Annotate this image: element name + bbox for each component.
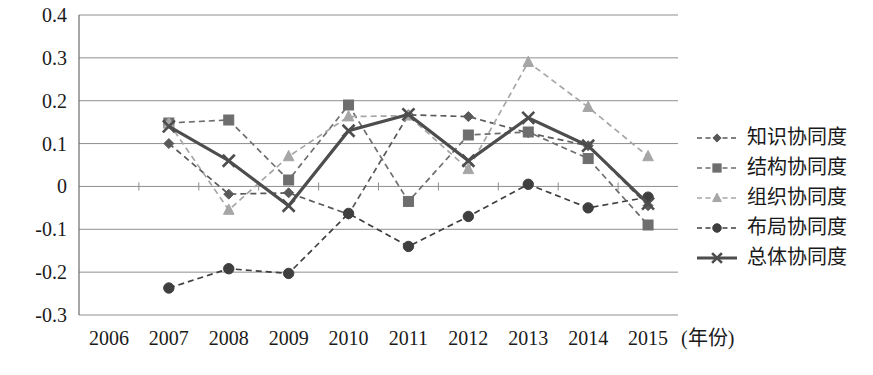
y-axis-tick-label: 0.4: [42, 4, 67, 26]
x-axis-tick-label: 2014: [568, 327, 608, 349]
marker-circle: [463, 211, 473, 221]
marker-diamond: [284, 188, 294, 198]
x-axis-tick-label: 2009: [269, 327, 309, 349]
x-axis-tick-label: 2013: [508, 327, 548, 349]
legend-item-3[interactable]: 组织协同度: [697, 186, 847, 208]
legend-label: 结构协同度: [747, 156, 847, 178]
legend-item-1[interactable]: 知识协同度: [697, 126, 847, 148]
y-axis-tick-label: -0.2: [35, 261, 67, 283]
legend-label: 组织协同度: [747, 186, 847, 208]
marker-circle: [713, 224, 722, 233]
y-axis-tick-label: 0.1: [42, 133, 67, 155]
marker-x: [223, 155, 235, 167]
marker-circle: [224, 264, 234, 274]
marker-square: [583, 154, 593, 164]
marker-circle: [343, 208, 353, 218]
marker-triangle: [223, 204, 234, 214]
series-line-x: [169, 114, 648, 205]
marker-square: [523, 127, 533, 137]
x-axis-tick-label: 2006: [89, 327, 129, 349]
marker-diamond: [713, 134, 721, 142]
marker-circle: [523, 179, 533, 189]
marker-triangle: [583, 101, 594, 111]
legend-item-5[interactable]: 总体协同度: [697, 246, 847, 268]
y-axis-tick-label: -0.3: [35, 304, 67, 326]
legend-label: 布局协同度: [747, 216, 847, 238]
marker-circle: [164, 283, 174, 293]
legend-label: 知识协同度: [747, 126, 847, 148]
series-line-square: [169, 105, 648, 225]
marker-triangle: [283, 150, 294, 160]
y-axis-tick-label: 0: [57, 175, 67, 197]
x-axis-tick-label: 2007: [149, 327, 189, 349]
x-axis-tick-label: 2008: [209, 327, 249, 349]
marker-x: [522, 112, 534, 124]
x-axis-title: (年份): [681, 327, 734, 350]
marker-square: [713, 164, 721, 172]
marker-square: [224, 115, 234, 125]
x-axis-tick-label: 2011: [389, 327, 428, 349]
legend-item-4[interactable]: 布局协同度: [697, 216, 847, 238]
line-chart-svg: 0.40.30.20.10-0.1-0.2-0.3200620072008200…: [0, 0, 873, 375]
y-axis-tick-label: -0.1: [35, 218, 67, 240]
chart-figure: 0.40.30.20.10-0.1-0.2-0.3200620072008200…: [0, 0, 873, 375]
x-axis-tick-label: 2015: [628, 327, 668, 349]
marker-triangle: [713, 193, 722, 201]
marker-circle: [283, 268, 293, 278]
legend-item-2[interactable]: 结构协同度: [697, 156, 847, 178]
marker-circle: [583, 203, 593, 213]
marker-square: [284, 175, 294, 185]
marker-square: [403, 196, 413, 206]
marker-square: [344, 100, 354, 110]
y-axis-tick-label: 0.3: [42, 47, 67, 69]
marker-x: [283, 200, 295, 212]
plot-area: 0.40.30.20.10-0.1-0.2-0.3200620072008200…: [0, 0, 873, 375]
marker-diamond: [463, 112, 473, 122]
x-axis-tick-label: 2012: [448, 327, 488, 349]
marker-triangle: [643, 150, 654, 160]
legend-label: 总体协同度: [747, 246, 847, 268]
y-axis-tick-label: 0.2: [42, 90, 67, 112]
x-axis-tick-label: 2010: [329, 327, 369, 349]
series-line-triangle: [169, 62, 648, 210]
marker-square: [643, 220, 653, 230]
marker-circle: [403, 241, 413, 251]
marker-square: [463, 130, 473, 140]
